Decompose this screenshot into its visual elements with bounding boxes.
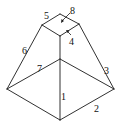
base-edge-front-left [7,89,60,120]
top-edge-front-left [42,25,60,36]
label-1: 1 [61,91,66,102]
top-edge-front-right [60,24,79,36]
label-2: 2 [94,103,99,114]
edge-2-base-front-right [60,89,114,120]
label-3: 3 [104,65,109,76]
label-6: 6 [22,45,27,56]
label-8: 8 [70,5,75,16]
label-4: 4 [69,36,74,47]
label-7: 7 [37,63,42,74]
arrow-8-leader [62,13,70,21]
frustum-diagram: 5 8 4 6 7 3 1 2 [0,0,119,129]
label-5: 5 [44,10,49,21]
